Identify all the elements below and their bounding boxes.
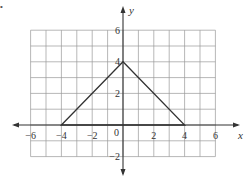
x-tick-label: −4 (56, 130, 67, 141)
y-tick-label: 6 (115, 25, 120, 36)
y-axis-up-arrow-icon (121, 6, 126, 13)
x-tick-label: 2 (151, 130, 156, 141)
origin-label: 0 (114, 127, 119, 138)
coordinate-plane: −6−4−2246642−2 x y 0 (0, 0, 246, 178)
x-axis-right-arrow-icon (233, 123, 240, 128)
x-tick-label: −2 (87, 130, 98, 141)
x-axis-label: x (237, 129, 243, 141)
x-tick-label: 4 (182, 130, 187, 141)
y-axis-label: y (128, 4, 134, 16)
x-tick-label: −6 (25, 130, 36, 141)
x-axis-left-arrow-icon (12, 123, 19, 128)
y-tick-label: 2 (115, 88, 120, 99)
y-axis-down-arrow-icon (121, 169, 126, 176)
x-tick-label: 6 (213, 130, 218, 141)
y-tick-label: 4 (115, 56, 120, 67)
y-tick-label: −2 (109, 151, 120, 162)
